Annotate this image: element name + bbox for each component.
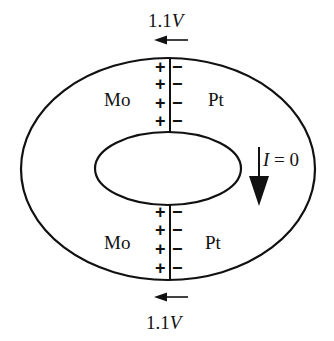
svg-text:+: + <box>155 220 166 240</box>
current-label: I = 0 <box>262 149 299 170</box>
voltage-arrow-left-bottom-icon <box>154 293 188 302</box>
svg-text:+: + <box>155 93 166 113</box>
svg-text:+: + <box>155 239 166 259</box>
svg-text:+: + <box>155 74 166 94</box>
bottom-voltage-label: 1.1V <box>146 312 184 333</box>
svg-text:−: − <box>172 202 183 222</box>
svg-text:+: + <box>155 258 166 278</box>
svg-text:+: + <box>155 202 166 222</box>
diagram-svg: 1.1V + + + + − − − − Mo Pt + + + + − − −… <box>0 0 334 341</box>
bottom-right-metal-label: Pt <box>205 232 222 253</box>
top-junction-signs: + + + + − − − − <box>155 57 183 131</box>
svg-text:−: − <box>172 93 183 113</box>
top-left-metal-label: Mo <box>104 89 130 110</box>
inner-hole <box>95 132 241 205</box>
svg-text:−: − <box>172 111 183 131</box>
svg-text:−: − <box>172 258 183 278</box>
top-voltage-label: 1.1V <box>148 10 186 31</box>
svg-text:−: − <box>172 74 183 94</box>
svg-text:−: − <box>172 220 183 240</box>
svg-text:−: − <box>172 239 183 259</box>
top-right-metal-label: Pt <box>208 89 225 110</box>
voltage-arrow-left-top-icon <box>154 36 188 45</box>
thermocouple-ring-diagram: 1.1V + + + + − − − − Mo Pt + + + + − − −… <box>0 0 334 341</box>
bottom-left-metal-label: Mo <box>104 232 130 253</box>
bottom-junction-signs: + + + + − − − − <box>155 202 183 278</box>
svg-text:+: + <box>155 111 166 131</box>
